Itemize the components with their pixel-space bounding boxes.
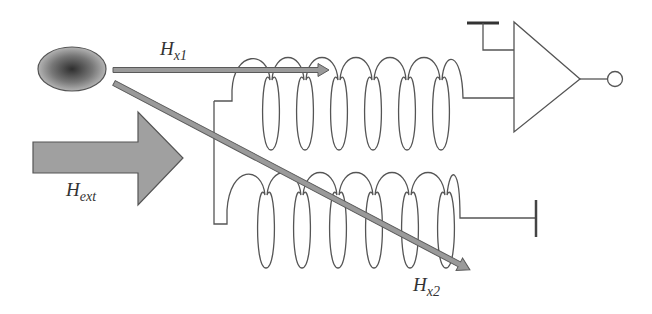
output-terminal bbox=[608, 72, 623, 87]
label-hext: Hext bbox=[66, 180, 96, 204]
label-hx2: Hx2 bbox=[413, 275, 440, 299]
field-arrow-hx1 bbox=[113, 64, 329, 77]
amplifier bbox=[467, 22, 623, 132]
magnetic-particle bbox=[38, 47, 106, 91]
upper-coil bbox=[214, 58, 514, 225]
external-field-arrow bbox=[33, 112, 183, 205]
diagram-canvas bbox=[0, 0, 652, 314]
label-hx1: Hx1 bbox=[160, 39, 187, 63]
